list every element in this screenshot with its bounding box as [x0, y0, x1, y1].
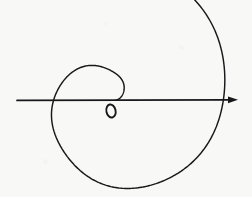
- origin-label-o: [105, 104, 117, 119]
- spiral-figure: [0, 0, 252, 197]
- polar-axis-line: [17, 100, 229, 101]
- axis-arrow-icon: [228, 96, 238, 103]
- spiral-curve: [0, 0, 225, 197]
- spiral-curve-group: [0, 0, 225, 197]
- origin-label-group: [105, 104, 117, 119]
- figure-canvas: [0, 0, 252, 197]
- polar-axis-group: [17, 96, 238, 103]
